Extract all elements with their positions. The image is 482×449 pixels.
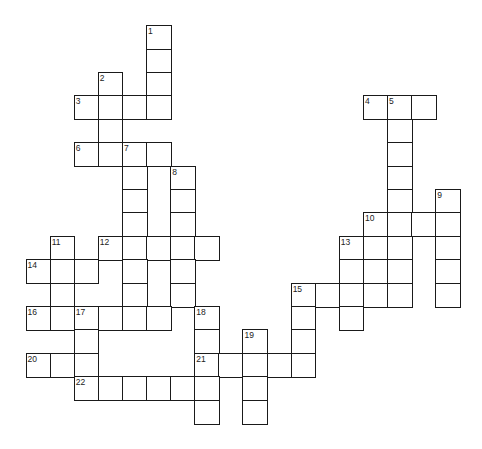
crossword-cell[interactable] xyxy=(435,283,461,308)
crossword-cell[interactable] xyxy=(387,283,413,308)
crossword-cell[interactable]: 13 xyxy=(339,236,365,261)
crossword-cell[interactable]: 7 xyxy=(122,142,148,167)
cell-letter-input[interactable] xyxy=(147,307,171,330)
cell-letter-input[interactable] xyxy=(292,330,316,353)
crossword-cell[interactable] xyxy=(122,166,148,191)
crossword-cell[interactable] xyxy=(146,376,172,401)
cell-letter-input[interactable] xyxy=(147,143,171,166)
crossword-cell[interactable] xyxy=(122,236,148,261)
cell-letter-input[interactable] xyxy=(195,307,219,330)
crossword-cell[interactable] xyxy=(170,212,196,237)
cell-letter-input[interactable] xyxy=(75,354,99,377)
cell-letter-input[interactable] xyxy=(195,330,219,353)
crossword-cell[interactable] xyxy=(387,142,413,167)
cell-letter-input[interactable] xyxy=(436,284,460,307)
crossword-cell[interactable] xyxy=(339,283,365,308)
cell-letter-input[interactable] xyxy=(99,143,123,166)
crossword-cell[interactable] xyxy=(122,95,148,120)
crossword-cell[interactable]: 17 xyxy=(74,306,100,331)
cell-letter-input[interactable] xyxy=(195,401,219,424)
crossword-cell[interactable]: 11 xyxy=(50,236,76,261)
crossword-cell[interactable] xyxy=(74,353,100,378)
crossword-cell[interactable] xyxy=(387,236,413,261)
crossword-cell[interactable] xyxy=(74,329,100,354)
crossword-cell[interactable] xyxy=(122,306,148,331)
cell-letter-input[interactable] xyxy=(99,237,123,260)
crossword-cell[interactable] xyxy=(122,259,148,284)
crossword-cell[interactable] xyxy=(267,353,293,378)
cell-letter-input[interactable] xyxy=(340,260,364,283)
cell-letter-input[interactable] xyxy=(27,260,51,283)
crossword-cell[interactable] xyxy=(98,376,124,401)
crossword-cell[interactable] xyxy=(98,119,124,144)
cell-letter-input[interactable] xyxy=(364,237,388,260)
crossword-cell[interactable] xyxy=(435,236,461,261)
cell-letter-input[interactable] xyxy=(147,96,171,119)
cell-letter-input[interactable] xyxy=(388,260,412,283)
crossword-cell[interactable] xyxy=(435,212,461,237)
crossword-cell[interactable] xyxy=(74,259,100,284)
crossword-cell[interactable] xyxy=(315,283,341,308)
crossword-cell[interactable] xyxy=(435,259,461,284)
cell-letter-input[interactable] xyxy=(51,354,75,377)
crossword-cell[interactable] xyxy=(411,212,437,237)
cell-letter-input[interactable] xyxy=(123,167,147,190)
crossword-cell[interactable] xyxy=(146,142,172,167)
cell-letter-input[interactable] xyxy=(412,213,436,236)
cell-letter-input[interactable] xyxy=(412,96,436,119)
crossword-cell[interactable] xyxy=(387,212,413,237)
cell-letter-input[interactable] xyxy=(75,330,99,353)
cell-letter-input[interactable] xyxy=(243,377,267,400)
cell-letter-input[interactable] xyxy=(51,237,75,260)
cell-letter-input[interactable] xyxy=(292,354,316,377)
cell-letter-input[interactable] xyxy=(171,167,195,190)
crossword-cell[interactable] xyxy=(122,283,148,308)
cell-letter-input[interactable] xyxy=(388,284,412,307)
crossword-cell[interactable] xyxy=(387,119,413,144)
crossword-cell[interactable] xyxy=(291,353,317,378)
cell-letter-input[interactable] xyxy=(99,96,123,119)
crossword-cell[interactable] xyxy=(170,376,196,401)
crossword-cell[interactable] xyxy=(363,236,389,261)
cell-letter-input[interactable] xyxy=(388,120,412,143)
crossword-cell[interactable] xyxy=(194,400,220,425)
cell-letter-input[interactable] xyxy=(75,307,99,330)
cell-letter-input[interactable] xyxy=(436,213,460,236)
cell-letter-input[interactable] xyxy=(123,190,147,213)
crossword-cell[interactable] xyxy=(387,166,413,191)
cell-letter-input[interactable] xyxy=(340,237,364,260)
crossword-cell[interactable] xyxy=(50,353,76,378)
crossword-cell[interactable] xyxy=(387,189,413,214)
crossword-cell[interactable] xyxy=(98,142,124,167)
crossword-cell[interactable] xyxy=(122,212,148,237)
crossword-cell[interactable] xyxy=(170,283,196,308)
cell-letter-input[interactable] xyxy=(388,237,412,260)
crossword-cell[interactable] xyxy=(339,259,365,284)
cell-letter-input[interactable] xyxy=(436,190,460,213)
crossword-cell[interactable] xyxy=(50,306,76,331)
crossword-cell[interactable]: 12 xyxy=(98,236,124,261)
cell-letter-input[interactable] xyxy=(51,307,75,330)
cell-letter-input[interactable] xyxy=(147,73,171,96)
cell-letter-input[interactable] xyxy=(364,96,388,119)
cell-letter-input[interactable] xyxy=(171,260,195,283)
cell-letter-input[interactable] xyxy=(316,284,340,307)
crossword-cell[interactable]: 8 xyxy=(170,166,196,191)
cell-letter-input[interactable] xyxy=(243,401,267,424)
cell-letter-input[interactable] xyxy=(171,190,195,213)
cell-letter-input[interactable] xyxy=(75,260,99,283)
crossword-cell[interactable]: 15 xyxy=(291,283,317,308)
crossword-cell[interactable] xyxy=(122,189,148,214)
cell-letter-input[interactable] xyxy=(243,354,267,377)
cell-letter-input[interactable] xyxy=(219,354,243,377)
cell-letter-input[interactable] xyxy=(123,307,147,330)
crossword-cell[interactable]: 14 xyxy=(26,259,52,284)
cell-letter-input[interactable] xyxy=(51,260,75,283)
cell-letter-input[interactable] xyxy=(388,143,412,166)
crossword-cell[interactable] xyxy=(411,95,437,120)
cell-letter-input[interactable] xyxy=(388,213,412,236)
crossword-cell[interactable] xyxy=(146,72,172,97)
cell-letter-input[interactable] xyxy=(123,260,147,283)
cell-letter-input[interactable] xyxy=(27,354,51,377)
crossword-cell[interactable] xyxy=(170,259,196,284)
